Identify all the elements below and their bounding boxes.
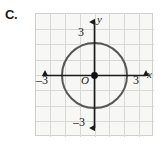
origin-label: O: [81, 75, 89, 86]
x-axis-name-label: x: [147, 69, 152, 80]
graph-figure: C.: [0, 0, 163, 147]
y-axis-name-label: y: [97, 14, 102, 25]
y-axis-tick-label-negative: –3: [73, 116, 85, 128]
x-axis-tick-label-negative: –3: [36, 74, 48, 86]
x-axis-tick-label-positive: 3: [133, 74, 139, 86]
choice-label: C.: [5, 7, 17, 22]
origin-dot: [91, 72, 98, 79]
y-axis-tick-label-positive: 3: [78, 26, 84, 38]
